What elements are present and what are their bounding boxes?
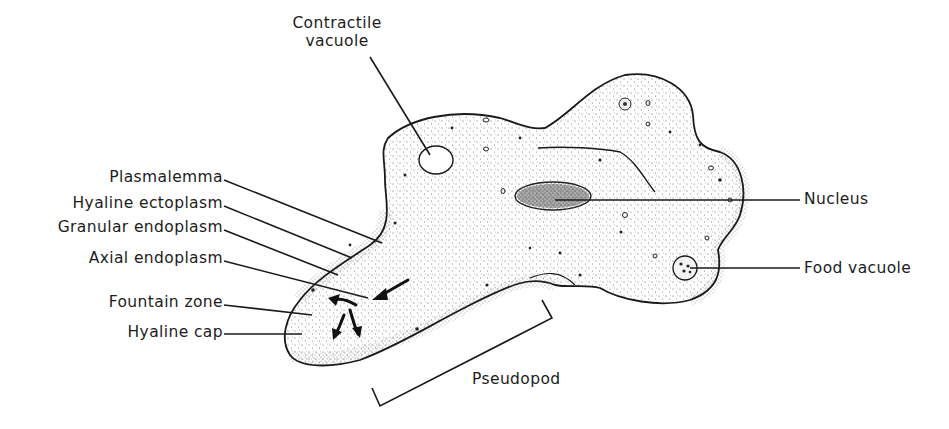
amoeba-diagram	[0, 0, 949, 429]
label-hyaline-ectoplasm: Hyaline ectoplasm	[73, 194, 223, 212]
label-axial-endoplasm: Axial endoplasm	[89, 249, 223, 267]
label-plasmalemma: Plasmalemma	[109, 168, 223, 186]
small-food-vacuole	[619, 98, 631, 110]
label-granular-endoplasm: Granular endoplasm	[58, 218, 223, 236]
label-hyaline-cap: Hyaline cap	[128, 323, 224, 341]
label-contractile-line2: vacuole	[262, 32, 412, 50]
label-pseudopod: Pseudopod	[472, 370, 561, 388]
label-nucleus: Nucleus	[804, 190, 868, 208]
contractile-vacuole	[419, 146, 453, 174]
label-food-vacuole: Food vacuole	[804, 259, 911, 277]
label-contractile-line1: Contractile	[262, 14, 412, 32]
label-contractile-vacuole: Contractile vacuole	[262, 14, 412, 50]
label-fountain-zone: Fountain zone	[109, 293, 223, 311]
